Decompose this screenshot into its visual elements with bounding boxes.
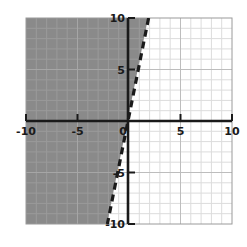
- x-tick-label-5: 5: [177, 126, 185, 137]
- plot-svg: [0, 0, 247, 247]
- y-tick-label-neg10: -10: [105, 219, 125, 230]
- coordinate-plane-graph: -10 -5 0 5 10 10 5 -5 -10: [0, 0, 247, 247]
- y-tick-label-neg5: -5: [113, 167, 125, 178]
- y-tick-label-10: 10: [110, 13, 125, 24]
- x-tick-label-10: 10: [224, 126, 239, 137]
- x-tick-label-zero: 0: [119, 126, 127, 137]
- y-tick-label-5: 5: [117, 64, 125, 75]
- x-tick-label-neg10: -10: [16, 126, 36, 137]
- x-tick-label-neg5: -5: [71, 126, 83, 137]
